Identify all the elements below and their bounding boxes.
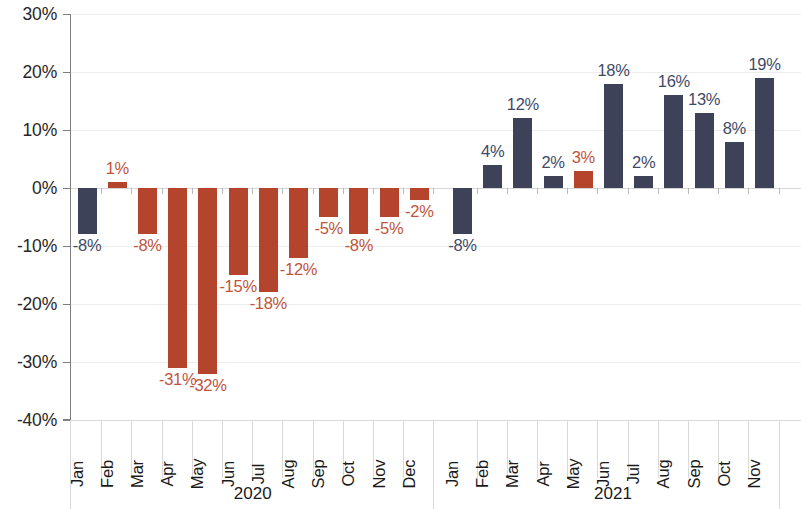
year-label-cell: 2021 <box>447 478 779 509</box>
y-axis-tick-mark <box>63 362 71 363</box>
x-axis-minor-tick <box>192 188 193 194</box>
bar[interactable] <box>78 188 97 234</box>
bar[interactable] <box>319 188 338 217</box>
bar-value-label: -12% <box>280 260 317 279</box>
bar-value-label: 2% <box>541 153 564 172</box>
y-axis-tick-mark <box>63 246 71 247</box>
y-axis-tick-labels: 30%20%10%0%-10%-20%-30%-40% <box>0 0 57 509</box>
bar-value-label: -2% <box>405 202 433 221</box>
bar[interactable] <box>289 188 308 258</box>
bar-value-label: 1% <box>106 159 129 178</box>
x-axis-minor-tick <box>688 188 689 194</box>
y-axis-label: 20% <box>23 62 57 83</box>
bar-value-label: -18% <box>250 294 287 313</box>
bar-value-label: 3% <box>572 148 595 167</box>
x-axis-minor-tick <box>131 188 132 194</box>
x-axis-minor-tick <box>597 188 598 194</box>
bar[interactable] <box>168 188 187 368</box>
bar-chart: 30%20%10%0%-10%-20%-30%-40% -8%1%-8%-31%… <box>0 0 801 509</box>
year-label: 2020 <box>234 484 272 504</box>
bar[interactable] <box>574 171 593 188</box>
y-axis-tick-mark <box>63 130 71 131</box>
x-axis-minor-tick <box>748 188 749 194</box>
bar-value-label: -8% <box>345 236 373 255</box>
x-axis-minor-tick <box>779 188 780 194</box>
x-axis-minor-tick <box>313 188 314 194</box>
bar[interactable] <box>138 188 157 234</box>
x-axis-minor-tick <box>718 188 719 194</box>
x-axis-minor-tick <box>477 188 478 194</box>
y-axis-label: 30% <box>23 4 57 25</box>
bar-value-label: -8% <box>448 236 476 255</box>
bar-value-label: -8% <box>73 236 101 255</box>
x-axis-minor-tick <box>252 188 253 194</box>
bar[interactable] <box>349 188 368 234</box>
bar[interactable] <box>380 188 399 217</box>
bar[interactable] <box>198 188 217 374</box>
bar[interactable] <box>755 78 774 188</box>
plot-area: -8%1%-8%-31%-32%-15%-18%-12%-5%-8%-5%-2%… <box>71 14 801 420</box>
y-axis-label: -40% <box>17 410 57 431</box>
y-axis-label: -20% <box>17 294 57 315</box>
y-axis-tick-mark <box>63 304 71 305</box>
bar-value-label: 13% <box>688 90 720 109</box>
y-axis-tick-mark <box>63 72 71 73</box>
bar[interactable] <box>229 188 248 275</box>
y-axis-label: -10% <box>17 236 57 257</box>
bar-value-label: -15% <box>219 277 256 296</box>
x-axis-minor-tick <box>373 188 374 194</box>
month-label-cell: Nov <box>749 420 779 478</box>
x-axis-minor-tick <box>282 188 283 194</box>
month-label-cell: Dec <box>404 420 434 478</box>
bar[interactable] <box>695 113 714 188</box>
bar-value-label: 12% <box>507 95 539 114</box>
bar-value-label: -5% <box>375 219 403 238</box>
bar[interactable] <box>544 176 563 188</box>
bar[interactable] <box>108 182 127 188</box>
x-axis-minor-tick <box>433 188 434 194</box>
y-axis-label: 0% <box>32 178 57 199</box>
bar[interactable] <box>410 188 429 200</box>
bar-value-label: 4% <box>481 142 504 161</box>
x-axis-minor-tick <box>567 188 568 194</box>
bar[interactable] <box>259 188 278 292</box>
x-axis-minor-tick <box>403 188 404 194</box>
y-axis-label: -30% <box>17 352 57 373</box>
month-label-band: JanFebMarAprMayJunJulAugSepOctNovDecJanF… <box>71 420 801 478</box>
x-axis-minor-tick <box>658 188 659 194</box>
bar-value-label: 18% <box>597 61 629 80</box>
x-axis-minor-tick <box>537 188 538 194</box>
bar[interactable] <box>664 95 683 188</box>
bar[interactable] <box>483 165 502 188</box>
bar-value-label: -32% <box>189 376 226 395</box>
year-label-cell: 2020 <box>72 478 434 509</box>
bar[interactable] <box>453 188 472 234</box>
year-label-band: 20202021 <box>71 478 801 509</box>
x-axis-minor-tick <box>222 188 223 194</box>
bar-value-label: 8% <box>723 119 746 138</box>
bar-value-label: -5% <box>314 219 342 238</box>
y-axis-tick-mark <box>63 14 71 15</box>
x-axis-minor-tick <box>343 188 344 194</box>
y-axis-tick-mark <box>63 188 71 189</box>
bar-value-label: 2% <box>632 153 655 172</box>
year-label: 2021 <box>594 484 632 504</box>
bar[interactable] <box>634 176 653 188</box>
x-axis-minor-tick <box>162 188 163 194</box>
x-axis-minor-tick <box>628 188 629 194</box>
y-axis-label: 10% <box>23 120 57 141</box>
bar-value-label: 16% <box>658 72 690 91</box>
bar[interactable] <box>604 84 623 188</box>
x-axis-minor-tick <box>101 188 102 194</box>
bar[interactable] <box>513 118 532 188</box>
bar-value-label: -8% <box>133 236 161 255</box>
bar[interactable] <box>725 142 744 188</box>
x-axis-minor-tick <box>507 188 508 194</box>
bar-value-label: 19% <box>748 55 780 74</box>
